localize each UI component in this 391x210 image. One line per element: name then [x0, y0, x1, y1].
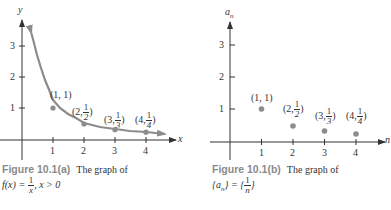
right-point-label-3: (3,13) [315, 107, 336, 126]
right-point-label-2: (2,12) [283, 100, 304, 119]
left-x-tick-4: 4 [143, 145, 148, 156]
right-x-tick-2: 2 [290, 147, 295, 158]
right-x-axis-label: n [385, 134, 390, 145]
right-point-label-1: (1, 1) [251, 92, 273, 103]
left-y-axis-label: y [18, 4, 22, 15]
right-point-label-4: (4,14) [346, 107, 367, 126]
right-caption: Figure 10.1(b)The graph of [212, 163, 339, 176]
left-y-tick-1: 1 [10, 102, 15, 113]
left-point-label-2: (2,12) [72, 103, 93, 122]
right-plot [210, 22, 385, 160]
right-y-tick-2: 2 [219, 71, 224, 82]
left-point-label-1: (1, 1) [50, 89, 72, 100]
left-caption: Figure 10.1(a)The graph of [2, 163, 128, 176]
left-y-tick-3: 3 [10, 40, 15, 51]
left-point-label-4: (4,14) [135, 111, 156, 130]
right-y-tick-1: 1 [219, 103, 224, 114]
left-formula: f(x) = 1x, x > 0 [2, 176, 60, 195]
right-x-tick-4: 4 [353, 147, 358, 158]
figure-label-b: Figure 10.1(b) [212, 163, 281, 175]
left-point-label-3: (3,13) [104, 111, 125, 130]
right-formula: {an} = {1n} [212, 176, 255, 195]
right-x-tick-3: 3 [322, 147, 327, 158]
left-x-axis-label: x [178, 133, 182, 144]
left-x-tick-1: 1 [50, 145, 55, 156]
right-ticks [230, 45, 356, 145]
right-y-axis-label: an [225, 6, 234, 20]
right-points [259, 106, 359, 137]
right-y-tick-3: 3 [219, 39, 224, 50]
right-x-tick-1: 1 [259, 147, 264, 158]
left-x-tick-3: 3 [112, 145, 117, 156]
left-x-tick-2: 2 [81, 145, 86, 156]
left-plot [0, 20, 176, 160]
left-y-tick-2: 2 [10, 71, 15, 82]
figure-label-a: Figure 10.1(a) [2, 163, 70, 175]
